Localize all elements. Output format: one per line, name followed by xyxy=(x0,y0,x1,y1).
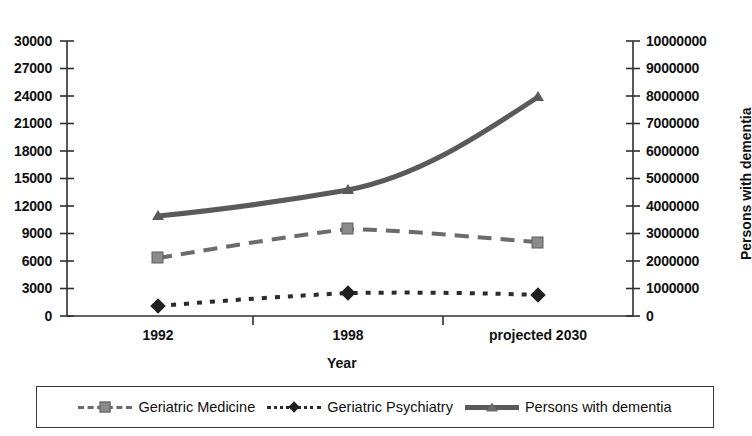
right-tick-2: 2000000 xyxy=(646,254,699,268)
left-tick-0: 0 xyxy=(0,309,52,323)
left-tick-1: 3000 xyxy=(0,281,52,295)
series-geriatric-medicine xyxy=(152,223,543,263)
legend-label-persons-with-dementia: Persons with dementia xyxy=(525,399,672,415)
right-tick-0: 0 xyxy=(646,309,654,323)
legend-item-geriatric-psychiatry[interactable]: Geriatric Psychiatry xyxy=(261,399,459,415)
x-tick-1992: 1992 xyxy=(110,327,206,343)
x-tick-1998: 1998 xyxy=(300,327,396,343)
right-axis-title: Persons with dementia xyxy=(738,108,752,260)
series-geriatric-psychiatry xyxy=(150,285,546,314)
right-axis xyxy=(626,41,640,316)
right-tick-8: 8000000 xyxy=(646,89,699,103)
right-tick-10: 10000000 xyxy=(646,34,707,48)
left-tick-6: 18000 xyxy=(0,144,52,158)
left-tick-2: 6000 xyxy=(0,254,52,268)
right-tick-3: 3000000 xyxy=(646,226,699,240)
left-tick-9: 27000 xyxy=(0,61,52,75)
dotted-diamond-key-icon xyxy=(267,400,321,414)
right-tick-1: 1000000 xyxy=(646,281,699,295)
series-persons-with-dementia xyxy=(152,91,544,220)
left-tick-10: 30000 xyxy=(0,34,52,48)
legend-item-geriatric-medicine[interactable]: Geriatric Medicine xyxy=(72,399,261,415)
right-tick-7: 7000000 xyxy=(646,116,699,130)
left-tick-5: 15000 xyxy=(0,171,52,185)
right-tick-4: 4000000 xyxy=(646,199,699,213)
legend-label-geriatric-medicine: Geriatric Medicine xyxy=(138,399,255,415)
x-tick-projected-2030: projected 2030 xyxy=(460,327,616,343)
plot-area xyxy=(0,0,752,436)
right-tick-9: 9000000 xyxy=(646,61,699,75)
left-axis xyxy=(60,41,74,316)
legend-label-geriatric-psychiatry: Geriatric Psychiatry xyxy=(327,399,453,415)
left-tick-4: 12000 xyxy=(0,199,52,213)
left-tick-8: 24000 xyxy=(0,89,52,103)
x-axis xyxy=(67,316,633,325)
left-tick-7: 21000 xyxy=(0,116,52,130)
chart-figure: 30000 27000 24000 21000 18000 15000 1200… xyxy=(0,0,752,436)
x-axis-title: Year xyxy=(327,355,357,371)
solid-triangle-key-icon xyxy=(465,400,519,414)
right-tick-5: 5000000 xyxy=(646,171,699,185)
chart-legend: Geriatric Medicine Geriatric Psychiatry … xyxy=(36,386,714,428)
legend-item-persons-with-dementia[interactable]: Persons with dementia xyxy=(459,399,678,415)
right-tick-6: 6000000 xyxy=(646,144,699,158)
left-tick-3: 9000 xyxy=(0,226,52,240)
dashed-square-key-icon xyxy=(78,400,132,414)
